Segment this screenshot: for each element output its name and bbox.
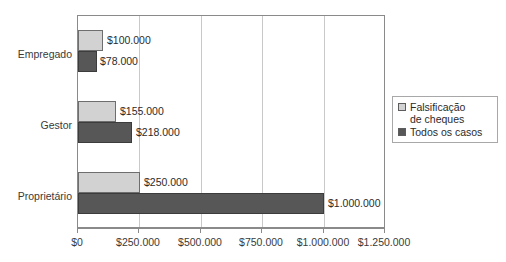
x-tick-label-1: $250.000 (116, 236, 160, 248)
category-label-empregado: Empregado (0, 48, 72, 60)
legend-item-todos-os-casos[interactable]: Todos os casos (398, 126, 493, 138)
x-tick-0 (77, 228, 78, 233)
legend-label-falsificacao: Falsificação de cheques (410, 101, 465, 125)
bar-gestor-falsificacao (78, 101, 116, 122)
x-tick-3 (261, 228, 262, 233)
bar-proprietario-todos (78, 193, 324, 214)
x-tick-2 (200, 228, 201, 233)
legend-swatch-icon-falsificacao (398, 103, 406, 111)
x-tick-label-5: $1.250.000 (358, 236, 411, 248)
x-tick-5 (384, 228, 385, 233)
legend: Falsificação de cheques Todos os casos (392, 96, 498, 143)
bar-value-empregado-todos: $78.000 (100, 51, 138, 72)
x-tick-label-4: $1.000.000 (297, 236, 350, 248)
bar-value-gestor-falsificacao: $155.000 (120, 101, 164, 122)
bar-value-empregado-falsificacao: $100.000 (107, 30, 151, 51)
gridline-1000000 (324, 16, 325, 227)
legend-item-falsificacao-de-cheques[interactable]: Falsificação de cheques (398, 101, 493, 125)
x-tick-1 (138, 228, 139, 233)
category-axis: Empregado Gestor Proprietário (0, 15, 72, 228)
x-tick-label-2: $500.000 (178, 236, 222, 248)
bar-chart: $100.000 $78.000 $155.000 $218.000 $250.… (0, 0, 506, 262)
x-axis-line (77, 228, 385, 229)
legend-label-todos: Todos os casos (410, 126, 482, 138)
bar-proprietario-falsificacao (78, 172, 140, 193)
bar-empregado-falsificacao (78, 30, 103, 51)
bar-empregado-todos (78, 51, 97, 72)
plot-area: $100.000 $78.000 $155.000 $218.000 $250.… (77, 15, 385, 228)
x-tick-4 (323, 228, 324, 233)
legend-swatch-icon-todos (398, 128, 406, 136)
bar-value-gestor-todos: $218.000 (136, 122, 180, 143)
bar-value-proprietario-falsificacao: $250.000 (144, 172, 188, 193)
category-label-gestor: Gestor (0, 119, 72, 131)
x-tick-label-0: $0 (71, 236, 83, 248)
bar-gestor-todos (78, 122, 132, 143)
bar-value-proprietario-todos: $1.000.000 (328, 193, 381, 214)
x-tick-label-3: $750.000 (239, 236, 283, 248)
category-label-proprietario: Proprietário (0, 190, 72, 202)
